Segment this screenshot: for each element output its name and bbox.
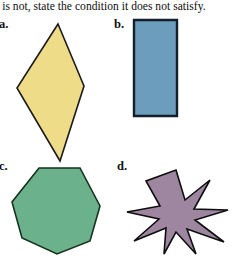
- rectangle-polygon: [134, 20, 177, 116]
- instruction-text: t is not, state the condition it does no…: [0, 0, 233, 13]
- figure-d-star: [124, 168, 232, 257]
- figure-label-a: a.: [0, 18, 8, 30]
- rhombus-polygon: [17, 24, 84, 161]
- figure-c-heptagon: [10, 166, 104, 257]
- heptagon-polygon: [12, 168, 100, 254]
- worksheet-page: t is not, state the condition it does no…: [0, 0, 233, 257]
- eight-pointed-star-polygon: [127, 170, 228, 254]
- figure-a-rhombus: [10, 18, 96, 168]
- figure-label-b: b.: [114, 18, 124, 30]
- figure-b-rectangle: [131, 17, 181, 121]
- figure-label-c: c.: [0, 160, 8, 172]
